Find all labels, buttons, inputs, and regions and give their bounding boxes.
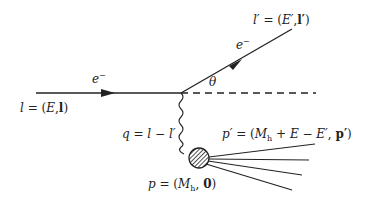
exchanged-momentum-label: q = l − l′ bbox=[122, 127, 176, 141]
hadron-jet-line bbox=[206, 164, 292, 190]
incoming-particle-label: e− bbox=[92, 71, 106, 86]
final-hadronic-momentum-label: p′ = (Mh + E − E′, p′) bbox=[222, 127, 352, 143]
outgoing-particle-label: e− bbox=[236, 37, 250, 52]
virtual-photon-line bbox=[179, 93, 184, 154]
hadron-jet-line bbox=[209, 159, 309, 160]
hadron-blob-icon bbox=[189, 148, 209, 168]
hadron-jet-line bbox=[208, 161, 302, 175]
incoming-momentum-label: l = (E,l) bbox=[20, 101, 68, 115]
hadron-jet-line bbox=[209, 144, 315, 157]
incoming-arrow-icon bbox=[101, 89, 115, 97]
outgoing-momentum-label: l′ = (E′,l′) bbox=[253, 13, 310, 27]
feynman-diagram: e− l = (E,l) e− l′ = (E′,l′) θ q = l − l… bbox=[0, 0, 367, 204]
target-momentum-label: p = (Mh, 0) bbox=[148, 177, 216, 193]
scattering-angle-label: θ bbox=[209, 75, 217, 89]
